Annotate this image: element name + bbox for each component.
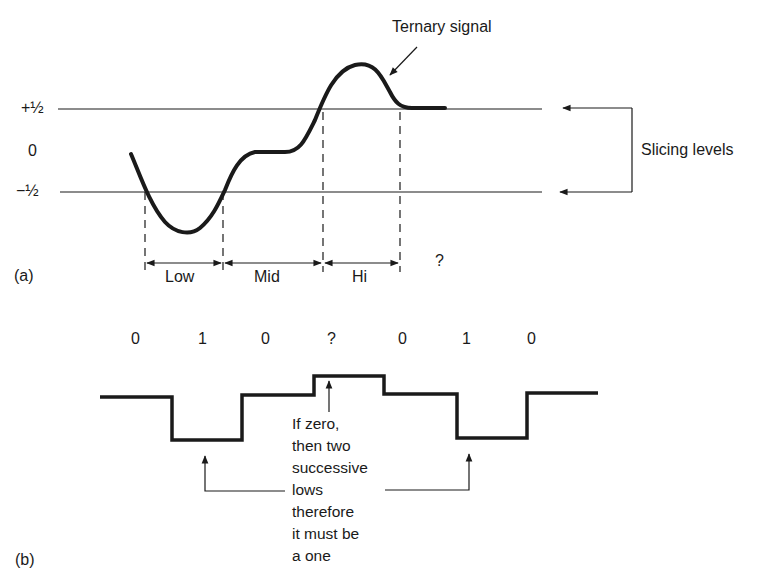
region-hi-label: Hi <box>352 268 367 286</box>
ambiguity-annotation: If zero, then two successive lows theref… <box>292 413 368 567</box>
panel-b-label: (b) <box>15 551 35 569</box>
region-mid-label: Mid <box>254 268 280 286</box>
ternary-signal-pointer <box>390 47 417 75</box>
bit-label-6: 1 <box>462 330 471 348</box>
region-low-label: Low <box>165 268 194 286</box>
bit-label-2: 1 <box>198 330 207 348</box>
figure: Ternary signal +½ 0 −½ Slicing levels (a… <box>0 0 765 583</box>
slicing-level-lines <box>58 109 542 192</box>
level-minus-half-label: −½ <box>16 182 39 200</box>
ternary-signal-waveform <box>131 64 445 232</box>
bit-label-4: ? <box>327 330 336 348</box>
ternary-signal-label: Ternary signal <box>392 18 492 36</box>
level-plus-half-label: +½ <box>21 99 44 117</box>
diagram-graphics <box>0 0 765 583</box>
slicing-levels-bracket <box>560 108 632 192</box>
bit-label-7: 0 <box>527 330 536 348</box>
region-unknown-label: ? <box>435 252 444 270</box>
level-zero-label: 0 <box>28 142 37 160</box>
bit-label-1: 0 <box>131 330 140 348</box>
panel-a-label: (a) <box>14 267 34 285</box>
bit-label-3: 0 <box>261 330 270 348</box>
slicing-levels-label: Slicing levels <box>641 141 733 159</box>
bit-label-5: 0 <box>398 330 407 348</box>
